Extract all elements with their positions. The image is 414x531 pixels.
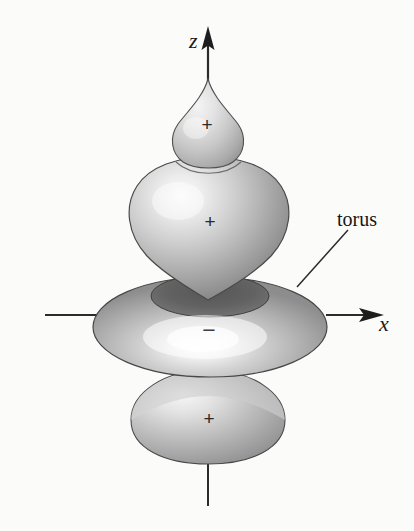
bottom-lobe-sign: + [203, 409, 214, 428]
x-axis-label: x [379, 313, 389, 335]
torus-sign: − [202, 319, 215, 342]
z-axis-label: z [189, 30, 198, 52]
torus-callout-leader-line [297, 230, 348, 287]
mid-lobe-highlight [152, 182, 204, 220]
mid-lobe-sign: + [204, 212, 215, 231]
torus-annotation-label: torus [337, 209, 377, 229]
orbital-figure: z x torus + + − + [0, 0, 414, 531]
orbital-illustration [0, 0, 414, 531]
top-lobe-sign: + [201, 115, 212, 134]
